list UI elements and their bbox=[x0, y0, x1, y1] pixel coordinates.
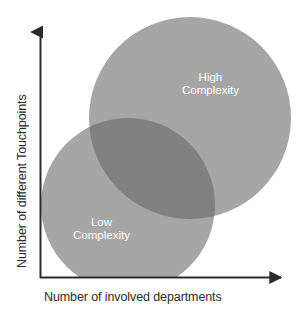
diagram-canvas bbox=[0, 0, 304, 313]
y-axis-label: Number of different Touchpoints bbox=[16, 94, 29, 268]
plot-area bbox=[41, 17, 291, 292]
complexity-diagram: High Complexity Low Complexity Number of… bbox=[0, 0, 304, 313]
x-axis-label: Number of involved departments bbox=[44, 291, 222, 304]
